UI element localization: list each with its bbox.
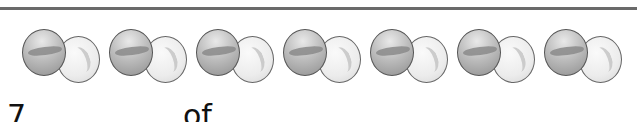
dark-marble-icon (544, 29, 588, 76)
marble-pair (196, 29, 276, 84)
dark-marble-icon (283, 29, 327, 76)
marble-pair (457, 29, 537, 84)
marble-pair (109, 29, 189, 84)
dark-marble-icon (370, 29, 414, 76)
marble-pair (544, 29, 624, 84)
marble-pair (370, 29, 450, 84)
top-rule (0, 7, 637, 10)
question-number: 7 (7, 101, 26, 122)
dark-marble-icon (196, 29, 240, 76)
dark-marble-icon (109, 29, 153, 76)
dark-marble-icon (457, 29, 501, 76)
marble-pair (22, 29, 102, 84)
marble-pair (283, 29, 363, 84)
question-connector: of (183, 101, 212, 122)
dark-marble-icon (22, 29, 66, 76)
